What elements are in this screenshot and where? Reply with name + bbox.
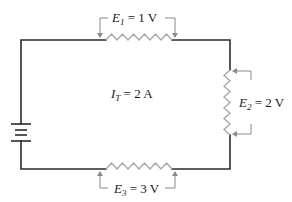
wire-bottom-left	[21, 141, 106, 169]
voltage-arrow-r2-top-icon	[237, 71, 251, 80]
resistor-r1-icon	[106, 34, 172, 40]
label-e1-symbol: E	[112, 10, 120, 25]
resistor-r3-icon	[106, 163, 172, 169]
voltage-arrow-r1-left-icon	[100, 18, 108, 33]
label-current-value: = 2 A	[120, 86, 152, 101]
voltage-arrow-r1-right-icon	[165, 18, 175, 33]
voltage-arrow-r2-bottom-icon	[237, 124, 251, 134]
label-e2-symbol: E	[239, 95, 247, 110]
voltage-arrow-r3-left-icon	[100, 176, 108, 188]
label-e2: E2 = 2 V	[239, 96, 284, 112]
voltage-arrow-r3-right-icon	[165, 176, 175, 188]
label-total-current: IT = 2 A	[111, 87, 153, 103]
battery-icon	[11, 124, 31, 141]
label-e3-symbol: E	[114, 181, 122, 196]
label-e2-value: = 2 V	[251, 95, 284, 110]
label-e3: E3 = 3 V	[114, 182, 159, 198]
wires	[21, 40, 230, 169]
wire-top-left	[21, 40, 106, 124]
label-e1: E1 = 1 V	[112, 11, 157, 27]
label-e3-value: = 3 V	[126, 181, 159, 196]
wire-bottom-right	[172, 135, 230, 169]
wire-top-right	[172, 40, 230, 70]
resistor-r2-icon	[224, 70, 230, 135]
label-e1-value: = 1 V	[124, 10, 157, 25]
